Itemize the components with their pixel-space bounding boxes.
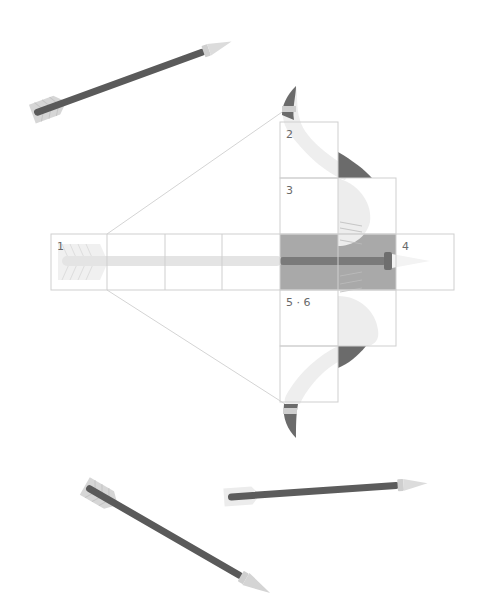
- bow-lower-limb: [283, 296, 378, 438]
- bow-upper-limb: [282, 86, 372, 246]
- cell-label-2: 2: [286, 129, 293, 140]
- arrow-bottom-right: [223, 474, 428, 506]
- cell-label-4: 4: [402, 241, 409, 252]
- arrow-top-left: [29, 32, 235, 123]
- crossbow-diagram: [0, 0, 480, 611]
- cell-label-1: 1: [57, 241, 64, 252]
- cell-label-3: 3: [286, 185, 293, 196]
- cell-label-5-6: 5 · 6: [286, 297, 311, 308]
